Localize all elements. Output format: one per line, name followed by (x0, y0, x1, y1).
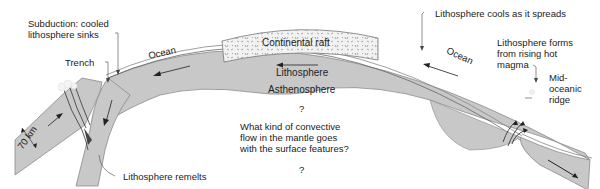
question-mark-bottom: ? (299, 164, 304, 175)
question-text: What kind of convective flow in the mant… (240, 121, 352, 154)
trench-label: Trench (65, 57, 94, 68)
lithosphere-cools-label: Lithosphere cools as it spreads (435, 8, 566, 19)
asthenosphere-label: Asthenosphere (268, 84, 335, 95)
mid-oceanic-ridge-label: Mid-oceanic ridge (549, 72, 594, 105)
lithosphere-label: Lithosphere (276, 67, 328, 78)
lithosphere-remelts-label: Lithosphere remelts (123, 171, 206, 182)
question-mark-top: ? (299, 103, 304, 114)
lithosphere-forms-label: Lithosphere forms from rising hot magma (497, 37, 587, 70)
continental-raft-label: Continental raft (262, 37, 330, 48)
subduction-label: Subduction: cooled lithosphere sinks (28, 18, 138, 40)
right-plate (520, 137, 590, 189)
